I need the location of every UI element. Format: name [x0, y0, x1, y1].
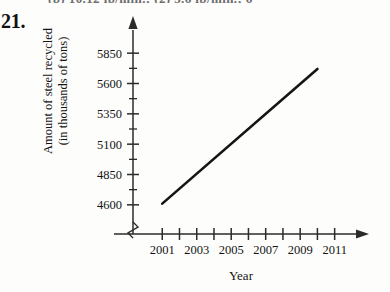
y-tick-label: 4850	[97, 168, 122, 182]
x-tick-label: 2001	[150, 243, 175, 257]
x-tick-label: 2009	[288, 243, 313, 257]
x-axis-tick-labels: 200120032005200720092011	[150, 243, 347, 257]
y-tick-label: 5850	[97, 47, 122, 61]
x-tick-label: 2011	[322, 243, 347, 257]
x-axis-arrowhead	[356, 229, 369, 238]
y-axis-tick-labels: 460048505100535056005850	[97, 47, 122, 213]
x-tick-label: 2007	[253, 243, 278, 257]
line-chart: 460048505100535056005850 200120032005200…	[0, 0, 390, 292]
y-tick-label: 5600	[97, 77, 122, 91]
data-series-line	[162, 69, 317, 204]
y-tick-label: 5100	[97, 138, 122, 152]
y-tick-label: 4600	[97, 198, 122, 212]
figure-page: (b) 10.12 lb/min.; (2) 5.6 lb/min.; 6 21…	[0, 0, 390, 292]
x-tick-label: 2003	[184, 243, 209, 257]
x-tick-label: 2005	[219, 243, 244, 257]
y-axis-arrowhead	[128, 16, 137, 29]
y-tick-label: 5350	[97, 107, 122, 121]
